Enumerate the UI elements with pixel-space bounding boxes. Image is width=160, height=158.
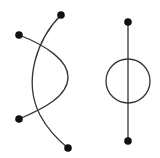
dot-top-right [57,11,65,19]
dot-bottom-right [64,144,72,152]
dot-top [124,18,132,26]
dot-bottom-left [15,115,23,123]
dot-bottom [124,137,132,145]
curve-b [19,35,68,119]
left-figure [15,11,72,152]
dot-top-left [15,31,23,39]
diagram-canvas [0,0,160,158]
right-figure [106,18,150,145]
curve-a [32,15,68,148]
